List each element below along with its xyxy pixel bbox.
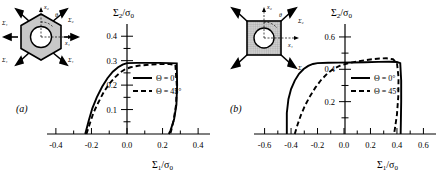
- inset-label-x1: x₁: [64, 40, 70, 46]
- inset-label-x1: x₁: [287, 42, 293, 48]
- x-tick-label: 0.2: [365, 140, 376, 150]
- panel-a: x₂ x₁ θ Σ₁ Σ₂ Σ₁ Σ₁ -0.4-0.20.00.20.4 0.…: [0, 0, 222, 172]
- inset-hexagon-cell: x₂ x₁ θ Σ₁ Σ₂ Σ₁ Σ₁: [1, 4, 78, 65]
- x-tick-label: -0.4: [49, 140, 63, 150]
- y-tick-label: 0.2: [324, 97, 335, 107]
- x-tick-label: 0.4: [392, 140, 403, 150]
- inset-arrow-label-sigma2: Σ₂: [297, 18, 304, 24]
- inset-label-x2: x₂: [43, 4, 49, 10]
- figure-yield-surfaces: x₂ x₁ θ Σ₁ Σ₂ Σ₁ Σ₁ -0.4-0.20.00.20.4 0.…: [0, 0, 444, 172]
- x-tick-label: 0.4: [193, 140, 204, 150]
- x-axis-title: Σ1/σ0: [152, 159, 174, 172]
- x-axis-tick-labels: -0.6-0.4-0.20.00.20.40.6: [258, 140, 429, 150]
- x-axis-ticks: [56, 128, 198, 134]
- panel-a-legend: Θ = 0° Θ = 45°: [133, 74, 182, 96]
- inset-label-x2: x₂: [266, 4, 272, 10]
- x-tick-label: -0.6: [258, 140, 271, 150]
- inset-label-theta: θ: [55, 12, 58, 18]
- panel-b-svg: x₂ x₁ θ Σ₂ Σ₁ -0.6-0.4-0.20.00.20.40.6 0…: [222, 0, 444, 172]
- y-tick-label: 0.4: [324, 64, 335, 74]
- y-axis-title: Σ2/σ0: [331, 7, 353, 20]
- panel-a-axes: -0.4-0.20.00.20.4 0.10.20.30.4: [47, 24, 210, 150]
- y-tick-label: 0.3: [106, 56, 117, 66]
- y-axis-title: Σ2/σ0: [113, 7, 135, 20]
- inset-arrow-label-1: Σ₁: [1, 20, 8, 26]
- inset-square-cell: x₂ x₁ θ Σ₂ Σ₁: [232, 4, 304, 71]
- legend-label-theta-0: Θ = 0°: [374, 74, 396, 83]
- inset-arrow-label-2: Σ₂: [67, 17, 74, 23]
- legend-label-theta-45: Θ = 45°: [156, 87, 182, 96]
- curve-theta-0: [287, 62, 401, 134]
- x-axis-title: Σ1/σ0: [377, 159, 399, 172]
- x-tick-label: 0.0: [122, 140, 133, 150]
- inset-axis-arrow-y: [39, 7, 43, 12]
- panel-a-label: (a): [16, 103, 28, 115]
- inset-axis-arrow-y: [262, 7, 266, 12]
- panel-b-legend: Θ = 0° Θ = 45°: [351, 74, 400, 96]
- legend-label-theta-0: Θ = 0°: [156, 74, 178, 83]
- panel-a-svg: x₂ x₁ θ Σ₁ Σ₂ Σ₁ Σ₁ -0.4-0.20.00.20.4 0.…: [0, 0, 222, 172]
- legend-label-theta-45: Θ = 45°: [374, 87, 400, 96]
- x-tick-label: -0.2: [85, 140, 98, 150]
- inset-axis-arrow-x: [294, 36, 299, 40]
- x-tick-label: 0.2: [157, 140, 168, 150]
- x-axis-tick-labels: -0.4-0.20.00.20.4: [49, 140, 204, 150]
- x-axis-ticks: [265, 128, 424, 134]
- inset-label-theta: θ: [279, 12, 282, 18]
- x-tick-label: 0.0: [339, 140, 350, 150]
- x-tick-label: -0.4: [284, 140, 298, 150]
- y-tick-label: 0.1: [106, 105, 117, 115]
- inset-arrow-label-3: Σ₁: [1, 57, 8, 63]
- panel-b: x₂ x₁ θ Σ₂ Σ₁ -0.6-0.4-0.20.00.20.40.6 0…: [222, 0, 444, 172]
- panel-b-label: (b): [230, 103, 242, 115]
- y-axis-tick-labels: 0.20.40.6: [324, 32, 335, 107]
- inset-arrow-label-4: Σ₁: [67, 57, 74, 63]
- x-tick-label: 0.6: [418, 140, 429, 150]
- y-tick-label: 0.6: [324, 32, 335, 42]
- y-tick-label: 0.4: [106, 31, 117, 41]
- x-tick-label: -0.2: [311, 140, 324, 150]
